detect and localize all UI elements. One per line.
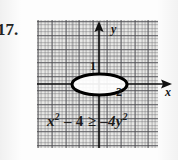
inequality-rhs-exponent: 2 (123, 112, 128, 122)
x-axis-label: x (165, 85, 171, 100)
y-axis-label: y (111, 22, 116, 37)
inequality-relation: ≥ (88, 113, 97, 129)
label-x-intercept-2: 2 (116, 85, 122, 100)
figure-page: 17. y x 1 2 x2 – 4 ≥ –4y2 (0, 0, 178, 160)
inequality-minus-four: – 4 (64, 113, 84, 129)
inequality-rhs-base: –4y (100, 113, 123, 129)
label-y-intercept-1: 1 (90, 59, 96, 74)
graph-drawing-layer (0, 0, 178, 160)
inequality-lhs-base: x (47, 113, 55, 129)
inequality-lhs-exponent: 2 (55, 112, 60, 122)
inequality-expression: x2 – 4 ≥ –4y2 (47, 112, 128, 130)
